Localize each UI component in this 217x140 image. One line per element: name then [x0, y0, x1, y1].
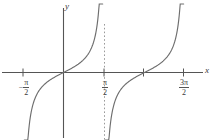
fraction-numerator: 3π	[179, 78, 189, 88]
plot-canvas	[0, 0, 217, 140]
x-axis-label: x	[205, 66, 209, 75]
fraction-denominator: 2	[179, 88, 189, 97]
fraction-denominator: 2	[102, 88, 108, 97]
fraction-denominator: 2	[23, 88, 29, 97]
y-axis-label: y	[65, 2, 69, 11]
fraction-neg-half-pi: π2	[23, 78, 29, 97]
x-tick-label-neg-half-pi: −π2	[14, 78, 34, 97]
tangent-graph-figure: y x −π2 π2 3π2	[0, 0, 217, 140]
fraction-numerator: π	[102, 78, 108, 88]
x-tick-label-three-half-pi: 3π2	[172, 78, 196, 97]
fraction-three-half-pi: 3π2	[179, 78, 189, 97]
fraction-numerator: π	[23, 78, 29, 88]
fraction-half-pi: π2	[102, 78, 108, 97]
x-tick-label-half-pi: π2	[96, 78, 114, 97]
